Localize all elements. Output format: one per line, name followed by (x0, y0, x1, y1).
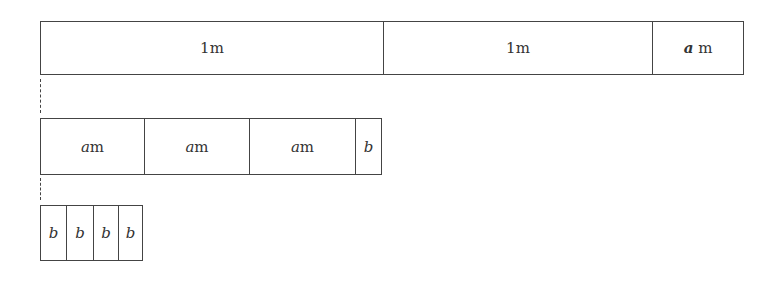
segment-var: b (49, 224, 59, 242)
segment-b: b (119, 206, 142, 260)
segment-am: am (250, 119, 356, 174)
segment-b: b (94, 206, 119, 260)
dashed-guide-2 (40, 178, 41, 200)
segment-am: am (41, 119, 145, 174)
segment-b: b (356, 119, 381, 174)
segment-1m: 1m (384, 22, 653, 74)
segment-unit: m (90, 138, 104, 156)
dashed-guide-1 (40, 79, 41, 113)
segment-unit: m (693, 39, 712, 57)
segment-var: b (101, 224, 111, 242)
segment-var: a (185, 138, 194, 156)
segment-var: b (364, 138, 374, 156)
segment-var: a (291, 138, 300, 156)
row-2-bar: am am am b (40, 118, 382, 175)
row-3-bar: b b b b (40, 205, 143, 261)
segment-unit: 1m (200, 39, 224, 57)
segment-unit: 1m (506, 39, 530, 57)
segment-unit: m (300, 138, 314, 156)
segment-am: a m (653, 22, 743, 74)
segment-am: am (145, 119, 250, 174)
segment-var: a (684, 39, 694, 57)
segment-var: b (75, 224, 85, 242)
segment-1m: 1m (41, 22, 384, 74)
segment-b: b (67, 206, 94, 260)
segment-var: b (126, 224, 136, 242)
segment-var: a (81, 138, 90, 156)
segment-b: b (41, 206, 67, 260)
row-1-bar: 1m 1m a m (40, 21, 744, 75)
segment-unit: m (194, 138, 208, 156)
